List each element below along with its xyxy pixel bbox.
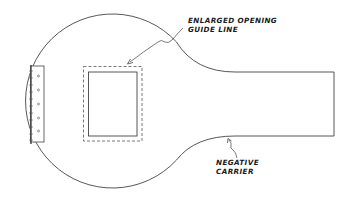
- enlarged-opening-guide-line: [84, 67, 143, 142]
- negative-opening: [89, 72, 138, 136]
- carrier-outline: [26, 14, 334, 188]
- guide-line-label-line2: GUIDE LINE: [188, 26, 277, 35]
- carrier-leader-arrow: [228, 139, 238, 159]
- guide-line-leader-arrow: [128, 28, 184, 64]
- hinge: [29, 65, 44, 144]
- carrier-label-line2: CARRIER: [216, 168, 259, 177]
- negative-carrier-diagram: [0, 0, 355, 205]
- guide-line-label: ENLARGED OPENING GUIDE LINE: [188, 17, 277, 34]
- carrier-label: NEGATIVE CARRIER: [216, 159, 259, 176]
